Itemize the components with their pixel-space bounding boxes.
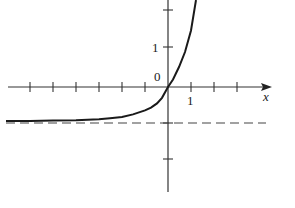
x-tick-label-1: 1 (187, 93, 194, 108)
function-graph: 0 1 1 x (0, 0, 295, 208)
y-tick-label-1: 1 (152, 40, 159, 55)
origin-label: 0 (154, 69, 161, 84)
x-axis-label: x (262, 89, 269, 104)
